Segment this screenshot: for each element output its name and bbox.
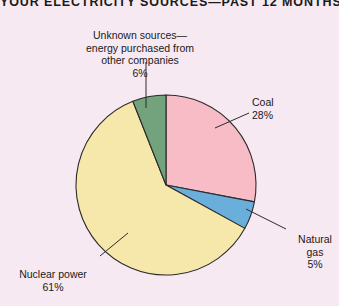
slice-label-natural-gas-percent: 5% (289, 258, 339, 270)
slice-label-unknown-percent: 6% (56, 67, 224, 79)
slice-label-nuclear-power: Nuclear power 61% (5, 256, 101, 306)
slice-label-nuclear-power-name: Nuclear power (19, 268, 87, 280)
slice-label-coal-percent: 28% (252, 109, 312, 121)
slice-label-coal-name: Coal (252, 96, 274, 108)
pie-slice-coal (166, 95, 256, 202)
pie-chart-figure: YOUR ELECTRICITY SOURCES—PAST 12 MONTHS … (0, 0, 339, 306)
slice-label-natural-gas: Natural gas 5% (289, 221, 339, 283)
slice-label-unknown: Unknown sources— energy purchased from o… (56, 17, 224, 91)
slice-label-nuclear-power-percent: 61% (5, 281, 101, 293)
slice-label-coal: Coal 28% (252, 84, 312, 134)
slice-label-natural-gas-name: Natural gas (298, 233, 332, 257)
slice-label-unknown-name: Unknown sources— energy purchased from o… (86, 29, 194, 66)
leader-line-gas (246, 209, 286, 229)
